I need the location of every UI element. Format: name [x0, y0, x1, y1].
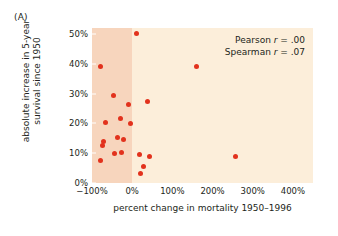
scatter-point	[138, 171, 143, 176]
scatter-point	[147, 154, 152, 159]
scatter-point	[145, 99, 150, 104]
x-tick-label: 100%	[160, 186, 184, 196]
scatter-point	[103, 120, 108, 125]
scatter-point	[128, 121, 133, 126]
y-tick-mark	[92, 33, 96, 34]
x-tick-label: 400%	[281, 186, 305, 196]
pearson-value: = .00	[277, 35, 305, 45]
x-tick-label: 0%	[125, 186, 139, 196]
x-tick-label: −100%	[76, 186, 107, 196]
scatter-point	[100, 143, 105, 148]
pearson-label: Pearson	[235, 35, 274, 45]
x-tick-label: 200%	[200, 186, 224, 196]
spearman-annotation: Spearman r = .07	[225, 46, 305, 58]
x-axis-title: percent change in mortality 1950–1996	[92, 203, 313, 213]
scatter-point	[134, 31, 139, 36]
pearson-annotation: Pearson r = .00	[225, 34, 305, 46]
y-tick-mark	[92, 93, 96, 94]
y-axis-title-line-2: survival since 1950	[32, 0, 43, 166]
y-tick-mark	[92, 183, 96, 184]
scatter-point	[115, 135, 120, 140]
y-tick-mark	[92, 153, 96, 154]
scatter-point	[137, 152, 142, 157]
scatter-point	[111, 93, 116, 98]
y-tick-mark	[92, 63, 96, 64]
y-tick-mark	[92, 123, 96, 124]
plot-area: 0%10%20%30%40%50% −100%0%100%200%300%400…	[92, 28, 313, 183]
spearman-label: Spearman	[225, 47, 274, 57]
y-axis-title: absolute increase in 5-year survival sin…	[21, 0, 43, 166]
spearman-value: = .07	[277, 47, 305, 57]
y-tick-label: 40%	[69, 59, 88, 69]
scatter-point	[121, 137, 126, 142]
y-tick-label: 20%	[69, 118, 88, 128]
y-tick-label: 10%	[69, 148, 88, 158]
y-axis-title-line-1: absolute increase in 5-year	[21, 0, 32, 166]
figure-panel-a: (A) 0%10%20%30%40%50% −100%0%100%200%300…	[0, 0, 338, 236]
y-tick-label: 50%	[69, 29, 88, 39]
correlation-annotations: Pearson r = .00 Spearman r = .07	[225, 34, 305, 58]
scatter-point	[233, 154, 238, 159]
y-tick-label: 30%	[69, 89, 88, 99]
scatter-point	[194, 64, 199, 69]
x-tick-label: 300%	[241, 186, 265, 196]
scatter-point	[141, 164, 146, 169]
